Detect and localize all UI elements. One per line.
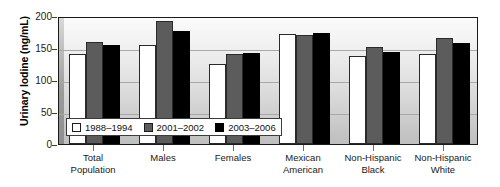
chart-legend: 1988–19942001–20022003–2006 <box>66 118 282 136</box>
bar-non-hispanic-white-2003–2006 <box>453 43 470 144</box>
bar-non-hispanic-white-2001–2002 <box>436 38 453 144</box>
bar-non-hispanic-white-1988–1994 <box>419 54 436 144</box>
x-tick-mark-1 <box>163 145 164 151</box>
y-tick-mark-50 <box>52 113 57 114</box>
bar-mexican-american-2001–2002 <box>296 35 313 144</box>
x-label-non-hispanic-white: Non-HispanicWhite <box>398 152 488 175</box>
bar-mexican-american-2003–2006 <box>313 33 330 144</box>
urinary-iodine-bar-chart: Urinary Iodine (ng/mL) 050100150200 1988… <box>0 0 500 187</box>
legend-label-1988–1994: 1988–1994 <box>85 122 133 133</box>
x-label-line: White <box>398 164 488 176</box>
bar-group-non-hispanic-black <box>339 18 409 144</box>
x-tick-mark-2 <box>233 145 234 151</box>
legend-item-2003–2006: 2003–2006 <box>215 122 276 133</box>
legend-swatch-icon-2003–2006 <box>215 123 224 132</box>
y-tick-mark-150 <box>52 49 57 50</box>
legend-item-1988–1994: 1988–1994 <box>72 122 133 133</box>
bar-non-hispanic-black-2003–2006 <box>383 52 400 144</box>
y-tick-mark-0 <box>52 145 57 146</box>
legend-item-2001–2002: 2001–2002 <box>144 122 205 133</box>
y-tick-label-0: 0 <box>22 140 52 150</box>
y-tick-mark-100 <box>52 81 57 82</box>
x-tick-mark-0 <box>93 145 94 151</box>
y-tick-label-100: 100 <box>22 76 52 86</box>
y-tick-label-200: 200 <box>22 12 52 22</box>
x-axis-tick-marks <box>58 145 478 151</box>
legend-swatch-icon-2001–2002 <box>144 123 153 132</box>
x-tick-mark-3 <box>303 145 304 151</box>
bar-non-hispanic-black-1988–1994 <box>349 56 366 144</box>
x-label-line: Population <box>48 164 138 176</box>
bar-non-hispanic-black-2001–2002 <box>366 47 383 144</box>
legend-label-2001–2002: 2001–2002 <box>157 122 205 133</box>
y-tick-label-50: 50 <box>22 108 52 118</box>
y-tick-mark-200 <box>52 17 57 18</box>
x-tick-mark-4 <box>373 145 374 151</box>
x-tick-mark-5 <box>443 145 444 151</box>
x-axis-category-labels: TotalPopulationMalesFemalesMexicanAmeric… <box>58 152 478 186</box>
y-tick-label-150: 150 <box>22 44 52 54</box>
legend-label-2003–2006: 2003–2006 <box>228 122 276 133</box>
bar-group-non-hispanic-white <box>409 18 478 144</box>
x-label-line: Non-Hispanic <box>398 152 488 164</box>
legend-swatch-icon-1988–1994 <box>72 123 81 132</box>
